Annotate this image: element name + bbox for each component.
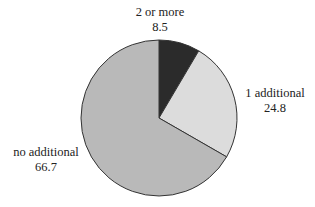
label-1-additional-name: 1 additional xyxy=(238,86,312,101)
label-1-additional-value: 24.8 xyxy=(238,101,312,116)
label-no-additional-name: no additional xyxy=(8,145,84,160)
label-2-or-more-value: 8.5 xyxy=(130,20,190,35)
label-2-or-more: 2 or more 8.5 xyxy=(130,5,190,35)
pie-slices xyxy=(81,40,237,196)
label-no-additional-value: 66.7 xyxy=(8,160,84,175)
label-2-or-more-name: 2 or more xyxy=(130,5,190,20)
label-no-additional: no additional 66.7 xyxy=(8,145,84,175)
label-1-additional: 1 additional 24.8 xyxy=(238,86,312,116)
